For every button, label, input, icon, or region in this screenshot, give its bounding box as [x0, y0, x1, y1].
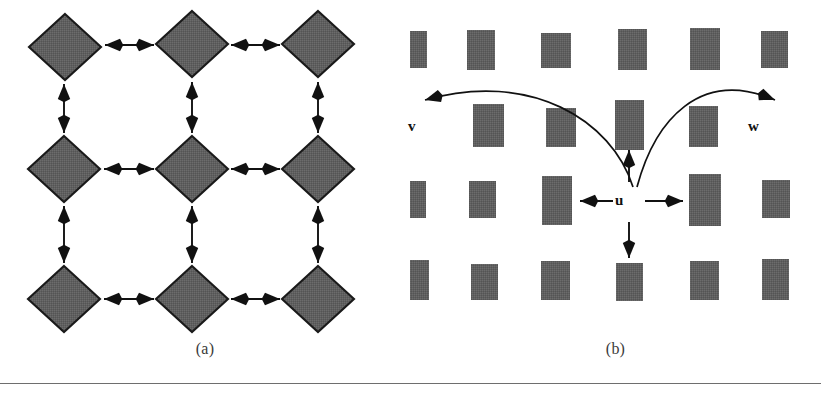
- edge-v-r1c2-r2c2: [312, 206, 324, 263]
- edge-h-r0c0-r0c1: [105, 39, 154, 51]
- edge-h-r1c0-r1c1-head-end: [136, 163, 154, 175]
- edge-h-r1c0-r1c1-head-start: [104, 163, 122, 175]
- rect-r2c0: [410, 181, 426, 218]
- edge-h-r2c0-r2c1-head-end: [136, 293, 154, 305]
- rect-r1c1: [473, 104, 504, 147]
- edge-v-r1c1-r2c1-head-start: [186, 206, 198, 224]
- edge-v-r1c1-r2c1: [186, 206, 198, 263]
- curved-arrow-u-to-v-path: [425, 91, 633, 187]
- edge-h-r1c1-r1c2-head-start: [231, 163, 249, 175]
- arrow-u-down: [623, 222, 635, 258]
- rect-r0c3: [618, 29, 647, 70]
- arrow-u-right: [645, 195, 683, 207]
- edge-v-r0c2-r1c2: [312, 82, 324, 133]
- rect-r0c0: [410, 31, 427, 68]
- diamond-node-r0c0: [29, 14, 101, 80]
- edge-v-r1c2-r2c2-head-start: [312, 206, 324, 224]
- arrow-u-left-head: [580, 195, 598, 207]
- edge-h-r0c1-r0c2-head-start: [231, 39, 249, 51]
- edge-v-r0c2-r1c2-head-start: [312, 82, 324, 100]
- edge-v-r1c2-r2c2-head-end: [312, 245, 324, 263]
- panel-a: (a): [0, 0, 410, 395]
- diamond-node-r0c1: [156, 11, 228, 77]
- curved-arrow-u-to-w-head: [758, 89, 775, 101]
- diamond-node-r0c2: [282, 11, 354, 77]
- rect-r2c2: [542, 176, 572, 225]
- arrow-u-up-head: [623, 150, 635, 168]
- edge-h-r2c1-r2c2-head-end: [262, 293, 280, 305]
- diamond-node-r2c2: [282, 266, 354, 332]
- rect-r3c2: [541, 261, 570, 300]
- rect-r0c4: [690, 28, 720, 70]
- node-label-v: v: [408, 118, 416, 135]
- caption-a: (a): [0, 340, 410, 358]
- panel-a-node-layer: [28, 11, 354, 332]
- curved-arrow-u-to-v: [425, 90, 633, 187]
- rect-r0c5: [761, 31, 788, 68]
- bottom-horizontal-rule: [0, 383, 821, 384]
- edge-h-r1c1-r1c2-head-end: [262, 163, 280, 175]
- edge-h-r2c0-r2c1-head-start: [104, 293, 122, 305]
- rect-r3c4: [690, 261, 719, 300]
- edge-v-r1c1-r2c1-head-end: [186, 245, 198, 263]
- edge-v-r0c0-r1c0-head-end: [58, 115, 70, 133]
- node-label-w: w: [748, 118, 759, 135]
- rect-r0c2: [541, 33, 571, 68]
- edge-h-r0c1-r0c2-head-end: [262, 39, 280, 51]
- rect-r0c1: [467, 30, 495, 70]
- panel-b: vuw (b): [410, 0, 821, 395]
- rect-r3c5: [762, 259, 789, 300]
- panel-b-diagram: [410, 0, 821, 340]
- edge-h-r2c1-r2c2: [231, 293, 280, 305]
- caption-b: (b): [410, 340, 821, 358]
- rect-r3c1: [471, 264, 498, 300]
- edge-h-r0c0-r0c1-head-start: [105, 39, 123, 51]
- edge-h-r2c1-r2c2-head-start: [231, 293, 249, 305]
- panel-a-diagram: [0, 0, 410, 340]
- rect-r2c3: [689, 174, 721, 226]
- edge-h-r1c1-r1c2: [231, 163, 280, 175]
- rect-r1c2: [546, 108, 576, 147]
- curved-arrow-u-to-v-head: [425, 90, 443, 102]
- edge-v-r1c0-r2c0-head-start: [58, 206, 70, 224]
- edge-v-r0c0-r1c0: [58, 84, 70, 133]
- diamond-node-r1c0: [28, 136, 100, 202]
- panel-b-straight-arrow-layer: [580, 150, 683, 258]
- edge-h-r2c0-r2c1: [104, 293, 154, 305]
- rect-r1c4: [689, 106, 718, 147]
- node-label-u: u: [615, 192, 623, 209]
- diamond-node-r2c0: [28, 266, 100, 332]
- edge-v-r1c0-r2c0: [58, 206, 70, 263]
- arrow-u-left: [580, 195, 613, 207]
- edge-v-r0c1-r1c1-head-start: [186, 82, 198, 100]
- edge-v-r0c0-r1c0-head-start: [58, 84, 70, 102]
- diamond-node-r1c1: [156, 136, 228, 202]
- rect-r1c3: [615, 100, 644, 150]
- edge-h-r1c0-r1c1: [104, 163, 154, 175]
- diamond-node-r2c1: [156, 266, 228, 332]
- edge-v-r0c2-r1c2-head-end: [312, 115, 324, 133]
- rect-r3c3: [616, 263, 643, 301]
- arrow-u-right-head: [665, 195, 683, 207]
- rect-r2c1: [469, 181, 496, 218]
- edge-h-r0c0-r0c1-head-end: [136, 39, 154, 51]
- arrow-u-down-head: [623, 240, 635, 258]
- rect-r2c4: [762, 180, 790, 218]
- panel-b-rect-layer: [410, 28, 790, 301]
- figure-root: (a) vuw (b): [0, 0, 821, 395]
- diamond-node-r1c2: [282, 136, 354, 202]
- edge-v-r0c1-r1c1-head-end: [186, 115, 198, 133]
- rect-r3c0: [410, 260, 429, 300]
- edge-h-r0c1-r0c2: [231, 39, 280, 51]
- edge-v-r1c0-r2c0-head-end: [58, 245, 70, 263]
- edge-v-r0c1-r1c1: [186, 82, 198, 133]
